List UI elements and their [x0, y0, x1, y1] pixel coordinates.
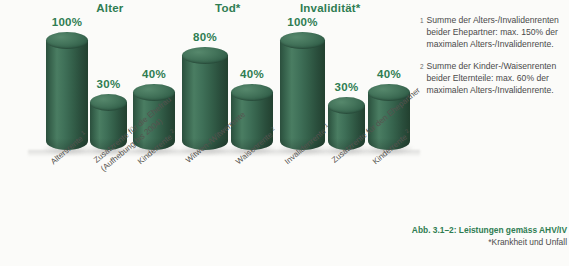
group-title: Alter	[96, 2, 123, 14]
footnote-item: 2Summe der Kinder-/Waisenrenten beider E…	[420, 60, 566, 97]
bar-top-ellipse	[182, 47, 228, 64]
footnote-text: Summe der Alters-/Invalidenrenten beider…	[427, 14, 566, 51]
footnote-item: 1Summe der Alters-/Invalidenrenten beide…	[420, 14, 566, 51]
bar-value-label: 40%	[142, 68, 166, 80]
bar-top-ellipse	[280, 32, 325, 49]
group-title: Invalidität*	[300, 2, 361, 14]
bar-value-label: 80%	[193, 31, 217, 43]
bar-value-label: 100%	[287, 16, 318, 28]
bar-value-label: 30%	[97, 78, 121, 90]
bar-value-label: 30%	[335, 81, 359, 93]
bar-value-label: 40%	[240, 68, 264, 80]
bar-top-ellipse	[328, 97, 365, 114]
bar-top-ellipse	[46, 32, 88, 49]
footnote-marker: 1	[420, 14, 424, 51]
footnote-marker: 2	[420, 60, 424, 97]
bar-top-ellipse	[231, 84, 273, 101]
caption-line-1: Abb. 3.1–2: Leistungen gemäss AHV/IV	[412, 225, 567, 235]
figure-ahv-iv-leistungen: AlterTod*Invalidität* 100%30%40%80%40%10…	[0, 0, 569, 266]
group-title: Tod*	[215, 2, 241, 14]
bar-value-label: 40%	[377, 68, 401, 80]
bar-value-label: 100%	[52, 16, 83, 28]
bar-top-ellipse	[90, 94, 127, 111]
caption-line-2: *Krankheit und Unfall	[352, 236, 567, 248]
footnotes-list: 1Summe der Alters-/Invalidenrenten beide…	[420, 14, 566, 105]
bar-chart-plot: AlterTod*Invalidität* 100%30%40%80%40%10…	[0, 0, 418, 215]
footnote-text: Summe der Kinder-/Waisenrenten beider El…	[427, 60, 566, 97]
figure-caption: Abb. 3.1–2: Leistungen gemäss AHV/IV *Kr…	[352, 224, 567, 248]
